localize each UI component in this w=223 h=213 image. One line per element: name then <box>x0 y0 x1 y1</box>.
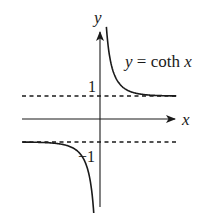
curve-label: y = coth x <box>123 52 192 71</box>
curve-label-eq: = coth <box>133 52 185 71</box>
coth-graph: y x 1 −1 y = coth x <box>0 0 223 213</box>
x-axis-label: x <box>181 110 190 129</box>
curve-label-lhs: y <box>123 52 133 71</box>
y-axis-label: y <box>92 8 102 27</box>
curve-label-rhs: x <box>183 52 192 71</box>
tick-label-neg1: −1 <box>78 148 95 165</box>
graph-canvas: y x 1 −1 y = coth x <box>0 0 223 213</box>
tick-label-1: 1 <box>88 78 96 95</box>
